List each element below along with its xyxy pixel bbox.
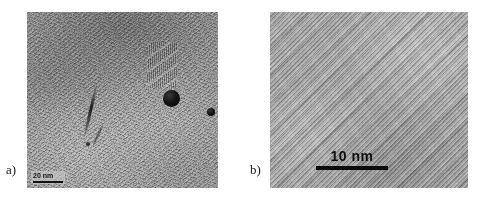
scalebar-panel-b: 10 nm — [316, 149, 388, 170]
scalebar-label-b: 10 nm — [316, 149, 388, 164]
scalebar-line-b — [316, 166, 388, 170]
panel-label-b: b) — [250, 163, 261, 176]
panel-a-background — [27, 12, 218, 188]
nanoparticle-large — [163, 90, 180, 107]
scalebar-label-a: 20 nm — [33, 172, 63, 180]
micrograph-panel-b[interactable]: 10 nm — [270, 12, 468, 188]
panel-label-a: a) — [6, 163, 16, 176]
nanoparticle-tiny — [86, 142, 90, 146]
scalebar-line-a — [33, 181, 63, 183]
scalebar-panel-a: 20 nm — [31, 171, 65, 184]
nanoparticle-small — [207, 108, 215, 116]
micrograph-panel-a[interactable]: 20 nm — [27, 12, 218, 188]
figure-root: a) 20 nm b) 10 nm — [0, 0, 488, 200]
lattice-fringe-patch — [146, 41, 178, 88]
